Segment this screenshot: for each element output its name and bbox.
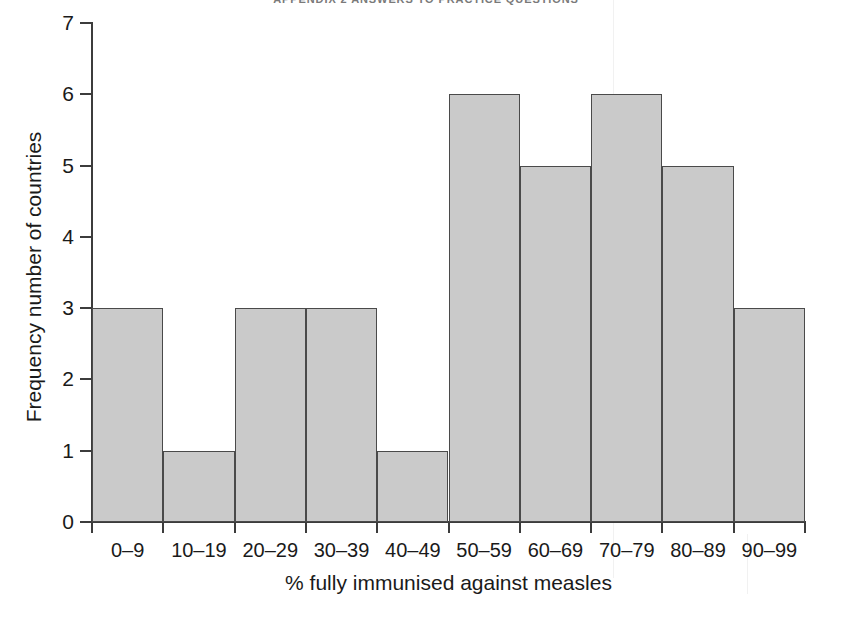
x-axis-tick-label: 70–79 — [591, 539, 662, 561]
y-axis-tick — [80, 236, 91, 238]
x-axis-tick-label: 50–59 — [449, 539, 520, 561]
y-axis-tick-label: 0 — [20, 511, 74, 532]
bar — [306, 308, 377, 522]
x-axis-tick-label: 30–39 — [306, 539, 377, 561]
page-canvas: APPENDIX 2 ANSWERS TO PRACTICE QUESTIONS… — [0, 0, 852, 622]
x-axis-title: % fully immunised against measles — [92, 571, 805, 594]
y-axis-title: Frequency number of countries — [23, 77, 45, 477]
bar — [163, 451, 234, 522]
x-axis-tick-label: 0–9 — [92, 539, 163, 561]
bar — [235, 308, 306, 522]
x-axis-tick — [804, 522, 806, 533]
x-axis-tick — [305, 522, 307, 533]
x-axis-tick — [448, 522, 450, 533]
x-axis-tick — [234, 522, 236, 533]
bar — [449, 94, 520, 522]
x-axis-tick-label: 40–49 — [377, 539, 448, 561]
x-axis-tick-label: 90–99 — [734, 539, 805, 561]
x-axis-tick — [590, 522, 592, 533]
y-axis-tick — [80, 307, 91, 309]
bar — [734, 308, 805, 522]
x-axis-tick-label: 80–89 — [662, 539, 733, 561]
y-axis-tick — [80, 378, 91, 380]
x-axis-tick — [733, 522, 735, 533]
x-axis-tick-label: 10–19 — [163, 539, 234, 561]
y-axis-tick — [80, 93, 91, 95]
y-axis-tick — [80, 22, 91, 24]
x-axis-tick — [91, 522, 93, 533]
y-axis-tick — [80, 450, 91, 452]
bar-group — [92, 23, 805, 522]
x-axis-tick — [661, 522, 663, 533]
x-axis-tick — [162, 522, 164, 533]
bar — [92, 308, 163, 522]
bar — [591, 94, 662, 522]
x-axis-tick — [376, 522, 378, 533]
bar — [662, 166, 733, 522]
bar — [377, 451, 448, 522]
x-axis-tick-label: 60–69 — [520, 539, 591, 561]
x-axis-tick — [519, 522, 521, 533]
bar — [520, 166, 591, 522]
x-axis-tick-label: 20–29 — [235, 539, 306, 561]
y-axis-tick — [80, 521, 91, 523]
y-axis-tick — [80, 165, 91, 167]
histogram-chart: 01234567 0–910–1920–2930–3940–4950–5960–… — [0, 0, 852, 622]
y-axis-tick-label: 7 — [20, 12, 74, 33]
